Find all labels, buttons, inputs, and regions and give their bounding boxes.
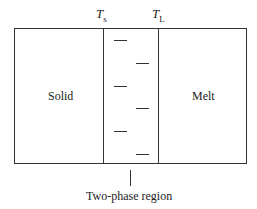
liquidus-temperature-label: TL [152, 6, 165, 24]
two-phase-pointer-line [130, 170, 131, 186]
solidus-boundary [103, 28, 104, 164]
solidus-temperature-label: Ts [96, 6, 107, 24]
dash-marker [136, 154, 149, 155]
melt-region-label: Melt [192, 89, 215, 104]
dash-marker [114, 86, 127, 87]
liquidus-boundary [158, 28, 159, 164]
two-phase-region-label: Two-phase region [86, 189, 172, 204]
dash-marker [114, 40, 127, 41]
dash-marker [136, 108, 149, 109]
solidus-subscript: s [103, 14, 107, 24]
dash-marker [136, 63, 149, 64]
dash-marker [114, 131, 127, 132]
liquidus-subscript: L [159, 14, 165, 24]
solid-region-label: Solid [48, 89, 73, 104]
